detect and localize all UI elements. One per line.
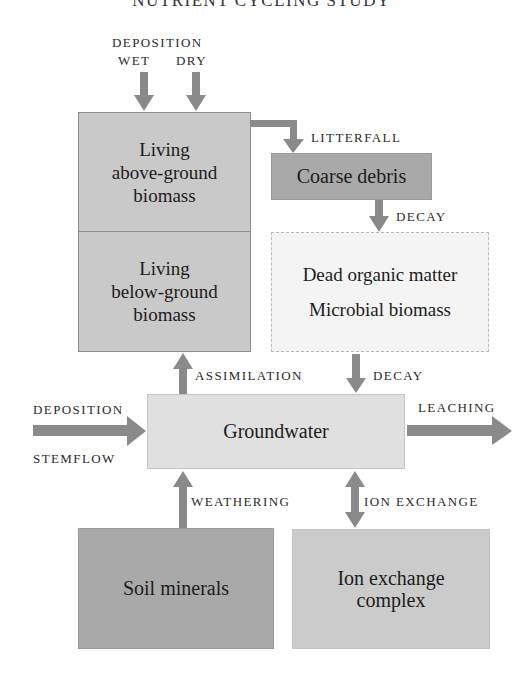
dry-deposition-arrow-icon (186, 72, 206, 111)
decay-upper-label: DECAY (396, 209, 447, 224)
stemflow-label: STEMFLOW (33, 451, 116, 466)
box-label-line: below-ground (111, 280, 218, 303)
box-label-line: Coarse debris (297, 165, 406, 188)
box-label-line: Ion exchange (337, 567, 444, 589)
weathering-label: WEATHERING (191, 494, 290, 509)
ion-exchange-label: ION EXCHANGE (364, 494, 479, 509)
leaching-label: LEACHING (418, 400, 496, 415)
box-label-line: Groundwater (223, 420, 329, 443)
dead-organic-matter-box: Dead organic matter Microbial biomass (271, 232, 489, 352)
soil-minerals-box: Soil minerals (78, 528, 274, 649)
assimilation-arrow-icon (173, 353, 193, 394)
decay-lower-label: DECAY (373, 368, 424, 383)
decay-lower-arrow-icon (346, 354, 366, 393)
box-label-line: complex (357, 589, 426, 611)
coarse-debris-box: Coarse debris (271, 153, 432, 200)
wet-deposition-arrow-icon (134, 72, 154, 111)
living-below-ground-biomass-box: Living below-ground biomass (78, 231, 251, 352)
box-label-line: Living (139, 138, 190, 161)
assimilation-label: ASSIMILATION (195, 368, 303, 383)
box-label-line: biomass (133, 303, 195, 326)
dry-label: DRY (176, 53, 207, 68)
box-label-line: Soil minerals (123, 577, 229, 600)
leaching-arrow-icon (407, 416, 512, 445)
box-label-line: Living (139, 257, 190, 280)
box-label-line: Microbial biomass (309, 296, 451, 323)
deposition-left-label: DEPOSITION (33, 402, 124, 417)
groundwater-box: Groundwater (147, 394, 405, 469)
ion-exchange-arrow-icon (345, 471, 365, 528)
wet-label: WET (118, 53, 150, 68)
deposition-stemflow-arrow-icon (33, 416, 146, 446)
litterfall-arrow-icon (250, 120, 304, 153)
ion-exchange-complex-box: Ion exchange complex (292, 529, 490, 649)
decay-upper-arrow-icon (369, 200, 389, 232)
deposition-top-label: DEPOSITION (112, 35, 203, 50)
living-above-ground-biomass-box: Living above-ground biomass (78, 112, 251, 232)
box-label-line: Dead organic matter (303, 261, 458, 288)
box-label-line: above-ground (112, 161, 218, 184)
box-label-line: biomass (133, 184, 195, 207)
litterfall-label: LITTERFALL (311, 130, 401, 145)
weathering-arrow-icon (173, 471, 193, 528)
